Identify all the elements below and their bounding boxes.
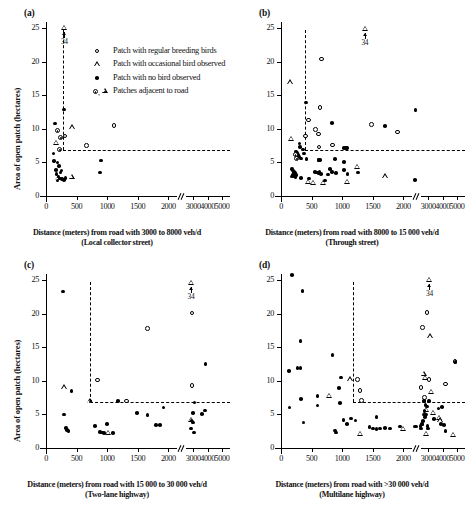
point-no-bird	[345, 422, 349, 426]
point-no-bird	[319, 172, 323, 176]
point-no-bird	[442, 423, 446, 427]
y-tick-label: 15	[23, 90, 39, 99]
offscale-value-label: 34	[357, 38, 373, 47]
point-no-bird	[342, 160, 346, 164]
y-tick-label: 0	[258, 191, 274, 200]
point-occasional-bird	[427, 333, 433, 338]
point-regular-breeding	[95, 378, 100, 383]
point-no-bird	[330, 121, 334, 125]
point-regular-breeding	[319, 57, 324, 62]
point-no-bird	[419, 427, 423, 431]
y-tick-label: 20	[23, 57, 39, 66]
x-tick-label: 1000	[326, 454, 358, 463]
x-tick	[312, 448, 313, 452]
x-axis	[40, 448, 230, 449]
x-tick-label: 500	[61, 202, 93, 211]
point-regular-breeding	[395, 130, 400, 135]
y-tick	[277, 162, 281, 163]
point-occasional-bird	[423, 431, 429, 436]
point-no-bird	[64, 176, 68, 180]
x-tick	[373, 448, 374, 452]
threshold-line-horizontal	[353, 402, 465, 403]
legend-filled-circle-icon	[92, 71, 112, 84]
point-occasional-bird	[347, 376, 353, 381]
point-no-bird	[62, 108, 66, 112]
y-axis	[281, 274, 282, 454]
axis-break-icon	[413, 192, 421, 201]
x-tick-label: 1000	[326, 202, 358, 211]
axis-break-icon	[178, 192, 186, 201]
point-regular-breeding	[419, 385, 424, 390]
point-adjacent-triangle	[87, 398, 93, 403]
point-occasional-bird	[288, 136, 294, 141]
point-occasional-bird	[344, 179, 350, 184]
x-tick	[138, 448, 139, 452]
point-regular-breeding	[318, 105, 323, 110]
point-occasional-bird	[69, 174, 75, 179]
point-no-bird	[421, 419, 425, 423]
legend-label: Patches adjacent to road	[113, 86, 188, 95]
y-axis	[46, 22, 47, 202]
y-tick	[42, 314, 46, 315]
legend-label: Patch with regular breeding birds	[113, 46, 216, 55]
point-no-bird	[345, 146, 349, 150]
point-no-bird	[342, 418, 346, 422]
point-no-bird	[135, 411, 139, 415]
point-no-bird	[318, 158, 322, 162]
x-tick-label: 500	[296, 202, 328, 211]
y-axis	[281, 22, 282, 202]
point-no-bird	[371, 427, 375, 431]
y-tick	[42, 129, 46, 130]
x-axis-sublabel-d: (Multilane highway)	[235, 490, 469, 499]
x-tick	[443, 448, 444, 452]
x-tick	[107, 196, 108, 200]
point-no-bird	[338, 401, 342, 405]
point-no-bird	[454, 360, 458, 364]
y-tick-label: 20	[23, 309, 39, 318]
point-regular-breeding	[358, 388, 363, 393]
x-axis-label-d: Distance (meters) from road with >30 000…	[235, 480, 469, 489]
point-no-bird	[299, 157, 303, 161]
x-tick	[403, 448, 404, 452]
point-regular-breeding	[330, 143, 335, 148]
threshold-line-vertical	[63, 30, 64, 150]
y-tick-label: 0	[23, 443, 39, 452]
y-tick-label: 10	[258, 376, 274, 385]
point-occasional-bird	[382, 173, 388, 178]
y-tick-label: 15	[258, 342, 274, 351]
point-no-bird	[414, 425, 418, 429]
y-tick-label: 0	[258, 443, 274, 452]
threshold-line-horizontal	[90, 402, 230, 403]
point-no-bird	[342, 168, 346, 172]
panel-d: (d) Distance (meters) from road with >30…	[235, 252, 469, 504]
x-tick	[168, 196, 169, 200]
y-tick-label: 25	[23, 275, 39, 284]
point-no-bird	[432, 417, 436, 421]
x-tick	[222, 448, 223, 452]
point-occasional-bird	[61, 384, 67, 389]
x-tick	[281, 448, 282, 452]
point-no-bird	[191, 411, 195, 415]
y-tick	[42, 280, 46, 281]
point-no-bird	[204, 362, 208, 366]
point-occasional-bird	[188, 280, 194, 285]
y-tick-label: 10	[258, 124, 274, 133]
point-regular-breeding	[359, 398, 364, 403]
offscale-value-label: 34	[421, 289, 437, 298]
point-no-bird	[287, 369, 291, 373]
x-tick	[457, 196, 458, 200]
legend-open-triangle-icon	[92, 58, 112, 71]
x-tick-label: 500	[61, 454, 93, 463]
x-tick	[168, 448, 169, 452]
point-occasional-bird	[69, 124, 75, 129]
x-tick	[208, 448, 209, 452]
point-no-bird	[337, 386, 341, 390]
point-regular-breeding	[306, 118, 311, 123]
y-tick-label: 25	[258, 275, 274, 284]
x-tick-label: 1500	[357, 454, 389, 463]
point-no-bird	[375, 415, 379, 419]
y-tick	[277, 95, 281, 96]
x-axis-sublabel-c: (Two-lane highway)	[0, 490, 234, 499]
point-occasional-bird	[450, 432, 456, 437]
point-no-bird	[383, 124, 387, 128]
